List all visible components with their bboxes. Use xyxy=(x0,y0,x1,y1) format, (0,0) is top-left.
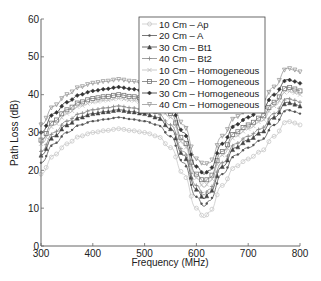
y-tick-label: 10 xyxy=(28,203,40,214)
x-tick-label: 800 xyxy=(292,248,309,259)
y-tick-label: 40 xyxy=(28,89,40,100)
legend-label: 10 Cm – Homogeneous xyxy=(159,65,260,76)
path-loss-chart: 0102030405060300400500600700800 Frequenc… xyxy=(0,0,321,281)
y-tick-label: 50 xyxy=(28,51,40,62)
x-axis-label: Frequency (MHz) xyxy=(131,257,208,268)
y-tick-label: 20 xyxy=(28,165,40,176)
x-tick-label: 400 xyxy=(84,248,101,259)
x-tick-label: 300 xyxy=(33,248,50,259)
legend-label: 40 Cm – Bt2 xyxy=(159,53,212,64)
legend-label: 30 Cm – Homogeneous xyxy=(159,88,260,99)
legend-label: 20 Cm – A xyxy=(159,30,204,41)
legend-label: 20 Cm – Homogeneous xyxy=(159,76,260,87)
legend-label: 30 Cm – Bt1 xyxy=(159,42,212,53)
legend-label: 40 Cm – Homogeneous xyxy=(159,99,260,110)
legend: 10 Cm – Ap20 Cm – A30 Cm – Bt140 Cm – Bt… xyxy=(139,17,265,113)
legend-entry: 40 Cm – Homogeneous xyxy=(142,99,260,110)
y-tick-label: 60 xyxy=(28,14,40,25)
x-tick-label: 700 xyxy=(240,248,257,259)
y-axis-label: Path Loss (dB) xyxy=(9,100,20,166)
series-line xyxy=(39,120,302,218)
legend-label: 10 Cm – Ap xyxy=(159,19,209,30)
legend-entry: 30 Cm – Homogeneous xyxy=(142,88,260,99)
legend-entry: 10 Cm – Homogeneous xyxy=(142,65,260,76)
legend-entry: 20 Cm – Homogeneous xyxy=(142,76,260,87)
y-tick-label: 30 xyxy=(28,127,40,138)
